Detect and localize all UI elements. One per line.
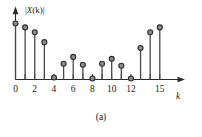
stem-marker bbox=[109, 56, 114, 61]
stem-marker bbox=[51, 75, 56, 80]
figure-panel: 02468101215 |X(k)| k (a) bbox=[0, 0, 202, 137]
x-tick-label: 8 bbox=[90, 84, 95, 94]
x-tick-label: 4 bbox=[52, 84, 57, 94]
y-axis-arrow-icon bbox=[13, 7, 19, 15]
x-tick-label: 0 bbox=[13, 84, 18, 94]
stem-marker bbox=[32, 30, 37, 35]
x-axis-arrow-icon bbox=[178, 77, 186, 83]
stem-marker bbox=[157, 25, 162, 30]
x-tick-label: 15 bbox=[155, 84, 165, 94]
stem-marker bbox=[23, 25, 28, 30]
y-axis-label: |X(k)| bbox=[25, 5, 45, 15]
stem-marker bbox=[42, 40, 47, 45]
stem-marker bbox=[100, 61, 105, 66]
x-tick-group bbox=[16, 74, 160, 80]
x-tick-label: 6 bbox=[71, 84, 76, 94]
stem-marker bbox=[90, 76, 95, 81]
stem-marker bbox=[61, 61, 66, 66]
stem-marker bbox=[138, 46, 143, 51]
stem-marker bbox=[119, 63, 124, 68]
figure-caption: (a) bbox=[0, 112, 202, 122]
x-tick-label-group: 02468101215 bbox=[13, 84, 165, 94]
x-tick-label: 10 bbox=[107, 84, 117, 94]
stem-marker bbox=[128, 76, 133, 81]
x-tick-label: 2 bbox=[32, 84, 37, 94]
stem-marker bbox=[148, 30, 153, 35]
x-tick-label: 12 bbox=[126, 84, 136, 94]
stem-marker bbox=[13, 21, 18, 26]
stem-group bbox=[13, 21, 162, 81]
stem-marker bbox=[80, 62, 85, 67]
stem-marker bbox=[71, 54, 76, 59]
x-axis-label: k bbox=[176, 91, 181, 101]
